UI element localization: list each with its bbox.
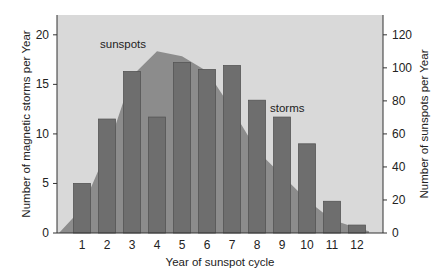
storm-bar — [149, 117, 166, 233]
x-axis-title: Year of sunspot cycle — [166, 256, 275, 268]
x-tick: 5 — [179, 238, 186, 252]
y-tick-left: 0 — [42, 226, 49, 240]
storm-bar — [74, 183, 91, 233]
y-tick-right: 40 — [392, 160, 406, 174]
sunspots-label: sunspots — [100, 38, 146, 50]
y-axis-title-right: Number of sunspots per Year — [418, 49, 430, 198]
y-tick-right: 120 — [392, 28, 412, 42]
storm-bar — [274, 117, 291, 233]
y-tick-left: 10 — [36, 127, 50, 141]
x-tick: 11 — [326, 238, 339, 252]
y-tick-left: 5 — [42, 176, 49, 190]
storm-bar — [324, 201, 341, 233]
x-tick: 12 — [350, 238, 364, 252]
x-tick: 9 — [279, 238, 286, 252]
storm-bar — [199, 70, 216, 234]
y-tick-right: 0 — [392, 226, 399, 240]
x-tick: 6 — [204, 238, 211, 252]
x-tick: 10 — [300, 238, 314, 252]
x-tick: 2 — [104, 238, 111, 252]
y-tick-right: 60 — [392, 127, 406, 141]
y-axis-title-left: Number of magnetic storms per Year — [20, 30, 32, 217]
storm-bar — [174, 63, 191, 233]
y-tick-right: 20 — [392, 193, 406, 207]
storm-bar — [299, 144, 316, 233]
x-tick: 4 — [154, 238, 161, 252]
x-tick: 8 — [254, 238, 261, 252]
storm-bar — [249, 100, 266, 233]
storms-label: storms — [270, 102, 305, 114]
x-tick: 1 — [79, 238, 86, 252]
storm-bar — [349, 225, 366, 233]
y-tick-left: 15 — [36, 77, 50, 91]
x-tick: 7 — [229, 238, 236, 252]
storm-bar — [99, 119, 116, 233]
y-tick-right: 100 — [392, 61, 412, 75]
y-tick-right: 80 — [392, 94, 406, 108]
storm-bar — [224, 66, 241, 233]
x-tick: 3 — [129, 238, 136, 252]
storm-bar — [124, 71, 141, 233]
y-tick-left: 20 — [36, 28, 50, 42]
chart: 05101520020406080100120123456789101112 s… — [0, 0, 444, 276]
